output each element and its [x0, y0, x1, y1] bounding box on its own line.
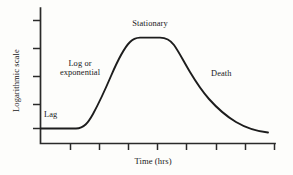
phase-label-log-line2: exponential [60, 68, 100, 77]
y-axis-title: Logarithmic scale [12, 35, 21, 127]
phase-label-lag: Lag [44, 110, 57, 119]
phase-label-stationary: Stationary [113, 19, 187, 28]
phase-label-death: Death [211, 69, 232, 78]
phase-label-log-line1: Log or [68, 59, 91, 68]
x-axis-title: Time (hrs) [108, 157, 198, 166]
phase-label-log-exponential: Log orexponential [44, 59, 116, 77]
x-axis-ticks [71, 144, 275, 151]
growth-curve-figure: Logarithmic scale Time (hrs) Lag Log ore… [0, 0, 293, 175]
bacterial-growth-curve [41, 38, 268, 133]
y-axis-ticks [33, 21, 41, 129]
growth-curve-path [41, 38, 268, 133]
